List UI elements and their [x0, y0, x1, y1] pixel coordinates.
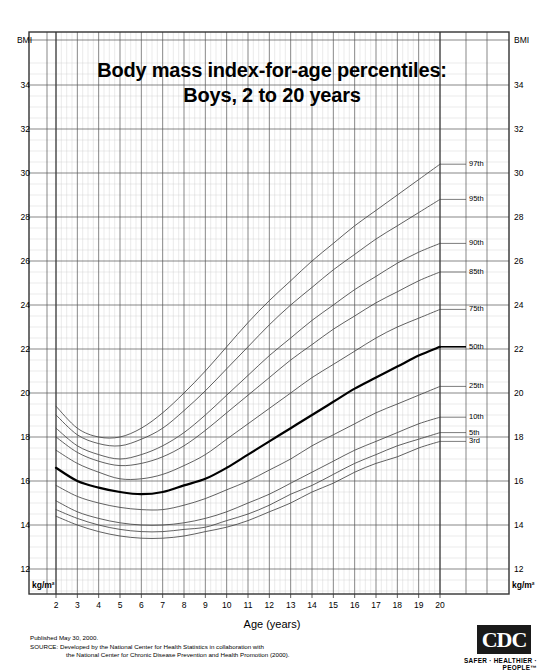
page-title: Body mass index-for-age percentiles: Boy… — [74, 58, 470, 108]
percentile-label-25th: 25th — [469, 381, 484, 390]
x-tick-9: 9 — [195, 600, 215, 610]
percentile-label-3rd: 3rd — [469, 436, 480, 445]
percentile-label-10th: 10th — [469, 412, 484, 421]
x-tick-3: 3 — [67, 600, 87, 610]
y-tick-left-20: 20 — [6, 388, 30, 398]
y-tick-right-26: 26 — [514, 256, 538, 266]
y-tick-left-24: 24 — [6, 300, 30, 310]
x-tick-4: 4 — [89, 600, 109, 610]
y-tick-left-28: 28 — [6, 212, 30, 222]
percentile-label-90th: 90th — [469, 238, 484, 247]
y-tick-right-30: 30 — [514, 168, 538, 178]
footer-notes: Published May 30, 2000. SOURCE: Develope… — [30, 634, 390, 660]
x-tick-19: 19 — [409, 600, 429, 610]
y-axis-label-right: BMI — [514, 35, 538, 45]
y-tick-left-18: 18 — [6, 432, 30, 442]
percentile-label-5th: 5th — [469, 428, 479, 437]
x-tick-5: 5 — [110, 600, 130, 610]
y-tick-right-16: 16 — [514, 476, 538, 486]
y-tick-left-26: 26 — [6, 256, 30, 266]
x-tick-11: 11 — [238, 600, 258, 610]
x-tick-14: 14 — [302, 600, 322, 610]
unit-label-left: kg/m² — [32, 580, 55, 590]
x-tick-7: 7 — [153, 600, 173, 610]
source-line-1: SOURCE: Developed by the National Center… — [30, 643, 390, 652]
title-line-1: Body mass index-for-age percentiles: — [97, 59, 447, 81]
x-tick-6: 6 — [131, 600, 151, 610]
published-date: Published May 30, 2000. — [30, 634, 390, 643]
y-tick-right-32: 32 — [514, 124, 538, 134]
y-tick-right-18: 18 — [514, 432, 538, 442]
x-tick-10: 10 — [217, 600, 237, 610]
y-tick-right-24: 24 — [514, 300, 538, 310]
y-tick-left-14: 14 — [6, 520, 30, 530]
percentile-label-50th: 50th — [469, 342, 484, 351]
percentile-label-75th: 75th — [469, 304, 484, 313]
x-tick-15: 15 — [323, 600, 343, 610]
x-tick-20: 20 — [430, 600, 450, 610]
y-tick-right-12: 12 — [514, 564, 538, 574]
y-tick-right-34: 34 — [514, 80, 538, 90]
y-tick-left-12: 12 — [6, 564, 30, 574]
percentile-label-97th: 97th — [469, 159, 484, 168]
x-tick-18: 18 — [387, 600, 407, 610]
y-axis-label-left: BMI — [8, 35, 32, 45]
source-line-2: the National Center for Chronic Disease … — [30, 651, 390, 660]
y-tick-left-34: 34 — [6, 80, 30, 90]
x-tick-8: 8 — [174, 600, 194, 610]
unit-label-right: kg/m² — [512, 580, 535, 590]
x-tick-2: 2 — [46, 600, 66, 610]
y-tick-right-28: 28 — [514, 212, 538, 222]
y-tick-left-30: 30 — [6, 168, 30, 178]
x-tick-16: 16 — [345, 600, 365, 610]
percentile-label-95th: 95th — [469, 194, 484, 203]
percentile-label-85th: 85th — [469, 267, 484, 276]
y-tick-left-32: 32 — [6, 124, 30, 134]
y-tick-left-22: 22 — [6, 344, 30, 354]
y-tick-right-20: 20 — [514, 388, 538, 398]
y-tick-left-16: 16 — [6, 476, 30, 486]
y-tick-right-14: 14 — [514, 520, 538, 530]
cdc-tagline: SAFER · HEALTHIER · PEOPLE™ — [429, 657, 537, 670]
cdc-logo: CDC — [477, 625, 531, 654]
x-axis-title: Age (years) — [0, 618, 544, 630]
x-tick-13: 13 — [281, 600, 301, 610]
x-tick-17: 17 — [366, 600, 386, 610]
bmi-growth-chart: Body mass index-for-age percentiles: Boy… — [0, 0, 544, 670]
y-tick-right-22: 22 — [514, 344, 538, 354]
x-tick-12: 12 — [259, 600, 279, 610]
title-line-2: Boys, 2 to 20 years — [74, 83, 470, 108]
